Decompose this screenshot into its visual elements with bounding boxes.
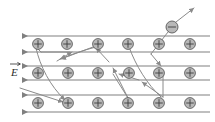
ion-row3-col1: [33, 98, 44, 109]
ion-row1-col4: [123, 39, 134, 50]
trajectory-segment-h: [96, 48, 109, 62]
ion-row2-col6: [185, 68, 196, 79]
trajectory-exit-arrow: [176, 8, 194, 22]
ion-row2-col2: [63, 68, 74, 79]
ion-row3-col2: [63, 98, 74, 109]
ion-row1-col5: [154, 39, 165, 50]
electric-field-label: E: [10, 62, 20, 78]
ion-row3-col4: [123, 98, 134, 109]
trajectory-segment-b: [151, 54, 161, 66]
ion-row3-col6: [185, 98, 196, 109]
ion-row3-col3: [93, 98, 104, 109]
ion-row3-col5: [154, 98, 165, 109]
ion-row2-col3: [93, 68, 104, 79]
figure-canvas: E: [0, 0, 215, 122]
ion-row2-col4: [124, 68, 135, 79]
ion-row1-col6: [185, 39, 196, 50]
trajectory-segment-j: [57, 52, 72, 61]
ion-row2-col1: [33, 68, 44, 79]
ion-row1-col3: [93, 39, 104, 50]
positive-ions-group: [33, 39, 196, 109]
negative-charge: [166, 21, 178, 33]
field-label-text: E: [10, 66, 18, 78]
charge-drift-figure: E: [0, 0, 215, 122]
ion-row1-col2: [62, 39, 73, 50]
ion-row1-col1: [33, 39, 44, 50]
ion-row2-col5: [154, 68, 165, 79]
